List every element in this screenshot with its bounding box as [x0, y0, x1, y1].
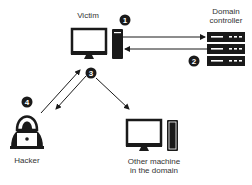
- step-badge-4: 4: [22, 97, 33, 108]
- hacker-icon: [10, 117, 44, 150]
- svg-text:1: 1: [123, 16, 128, 25]
- domain-controller-label-line2: controller: [200, 16, 252, 25]
- victim-label: Victim: [68, 11, 108, 20]
- victim-computer-icon: [71, 29, 123, 59]
- svg-text:4: 4: [25, 98, 30, 107]
- arrow-victim-to-other-machine: [96, 78, 129, 109]
- domain-controller-label-line1: Domain: [200, 7, 252, 16]
- other-machine-computer-icon: [126, 120, 178, 151]
- other-machine-label-line2: in the domain: [122, 166, 186, 175]
- svg-text:2: 2: [192, 57, 197, 66]
- hacker-label: Hacker: [7, 156, 47, 165]
- arrow-hacker-to-victim: [41, 70, 80, 113]
- step-badge-2: 2: [189, 56, 200, 67]
- other-machine-label-line1: Other machine: [122, 157, 186, 166]
- svg-text:3: 3: [89, 69, 94, 78]
- step-badge-3: 3: [86, 68, 97, 79]
- domain-controller-server-icon: [207, 32, 245, 66]
- arrow-victim-to-hacker: [56, 76, 86, 109]
- step-badge-1: 1: [120, 15, 131, 26]
